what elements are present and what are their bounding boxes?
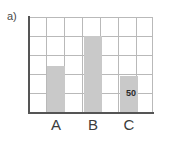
gridline-vertical [82,17,83,112]
x-tick-label-b: B [84,116,102,134]
y-axis-line [28,16,30,113]
panel-label: a) [7,10,17,23]
gridline-vertical [118,17,119,112]
x-tick-label-c: C [120,116,138,134]
x-tick-label-a: A [47,116,65,134]
bar-c-value-label: 50 [126,88,136,98]
bar-b [84,36,102,112]
bar-a [47,66,65,112]
plot-area: 50 [29,17,153,112]
chart-screenshot: a) 50 A B C [0,0,170,143]
x-axis-line [28,112,154,114]
